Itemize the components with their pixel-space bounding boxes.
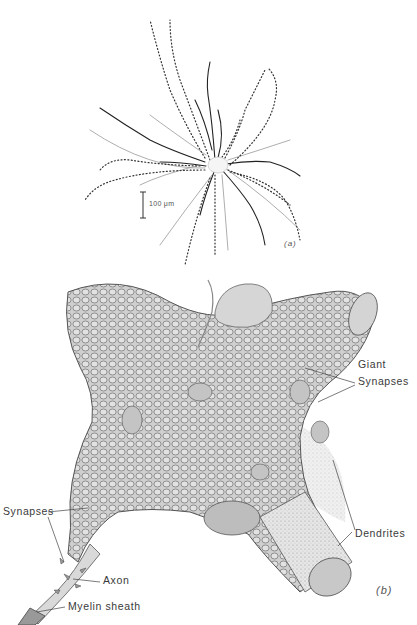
label-axon: Axon [103, 574, 129, 586]
label-synapses: Synapses [3, 505, 54, 517]
label-myelin-sheath: Myelin sheath [68, 600, 141, 612]
label-dendrites: Dendrites [355, 527, 405, 539]
neuron-tracing-drawing [0, 0, 417, 272]
panel-b-cell-body-drawing: Giant Synapses Synapses Axon Myelin shea… [0, 272, 417, 625]
label-giant-synapses: Synapses [358, 375, 409, 387]
cell-body-illustration [0, 272, 417, 625]
panel-a-tag: (a) [284, 239, 297, 248]
panel-a-neuron-tracing: 100 μm (a) [0, 0, 417, 272]
panel-b-tag: (b) [376, 584, 392, 596]
scale-bar-label: 100 μm [149, 200, 174, 207]
label-giant: Giant [358, 358, 386, 370]
